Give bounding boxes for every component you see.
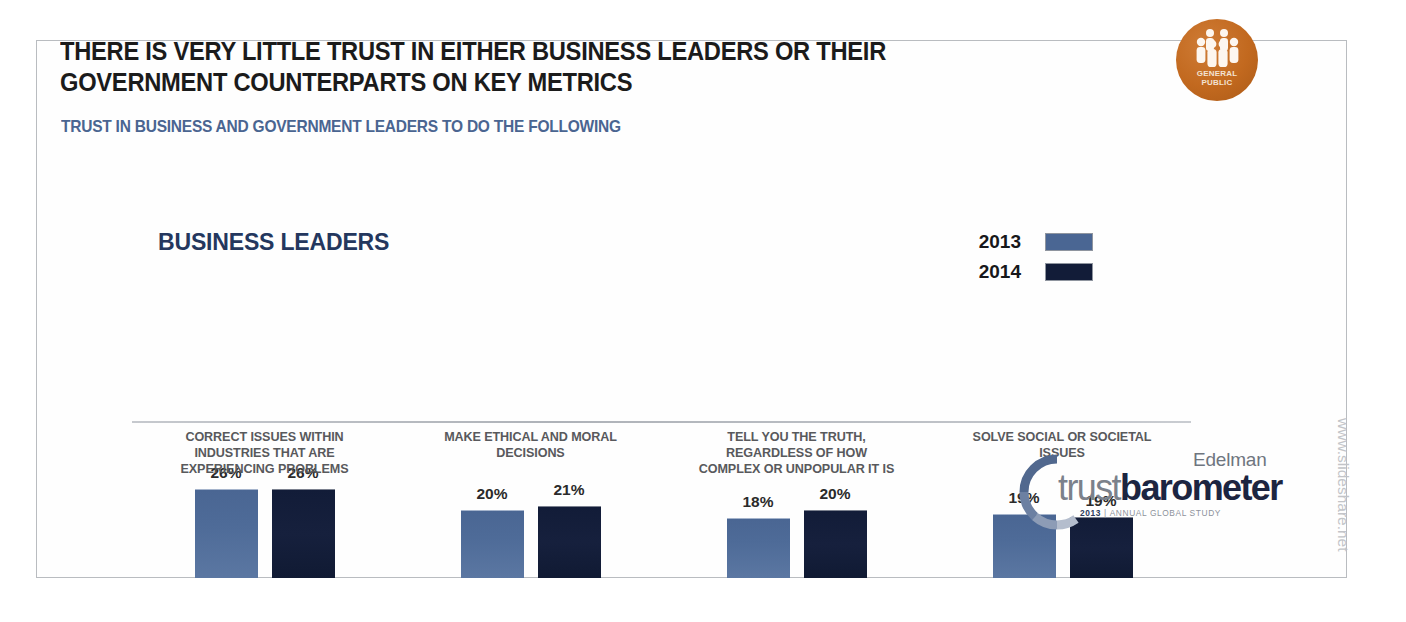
logo-word-trust: trust xyxy=(1058,467,1120,508)
category-label-3: TELL YOU THE TRUTH, REGARDLESS OF HOW CO… xyxy=(656,429,937,477)
logo-sub-divider: | xyxy=(1104,508,1107,518)
edelman-trust-barometer-logo: Edelman trustbarometer 2013 | ANNUAL GLO… xyxy=(1018,445,1288,533)
legend-label-2014: 2014 xyxy=(961,261,1045,283)
x-axis-line xyxy=(132,421,1191,423)
legend-item-2014: 2014 xyxy=(961,259,1161,285)
bar-value-2014-3: 20% xyxy=(819,485,850,503)
legend-item-2013: 2013 xyxy=(961,229,1161,255)
category-label-3-line1: TELL YOU THE TRUTH, xyxy=(656,429,937,445)
bar-value-2013-3: 18% xyxy=(742,493,773,511)
category-label-3-line3: COMPLEX OR UNPOPULAR IT IS xyxy=(656,461,937,477)
slideshare-watermark: www.slideshare.net xyxy=(1334,418,1352,598)
bar-2013-3[interactable] xyxy=(727,518,790,578)
logo-sub-year: 2013 xyxy=(1080,508,1101,518)
bar-2014-3[interactable] xyxy=(804,510,867,578)
bar-2013-2[interactable] xyxy=(461,510,524,578)
logo-subline: 2013 | ANNUAL GLOBAL STUDY xyxy=(1080,508,1221,518)
bar-2014-2[interactable] xyxy=(538,506,601,578)
category-label-2-line2: DECISIONS xyxy=(398,445,663,461)
logo-word-barometer: barometer xyxy=(1120,467,1282,508)
bar-wrap-2013-2: 20% xyxy=(461,446,524,578)
bar-2013-1[interactable] xyxy=(195,489,258,578)
bar-wrap-2014-2: 21% xyxy=(538,446,601,578)
category-label-1-line3: EXPERIENCING PROBLEMS xyxy=(132,461,397,477)
legend-swatch-2014 xyxy=(1045,263,1093,281)
bar-value-2013-2: 20% xyxy=(476,485,507,503)
bar-value-2014-2: 21% xyxy=(553,481,584,499)
legend-swatch-2013 xyxy=(1045,233,1093,251)
logo-sub-text: ANNUAL GLOBAL STUDY xyxy=(1110,508,1221,518)
category-label-2: MAKE ETHICAL AND MORAL DECISIONS xyxy=(398,429,663,461)
legend-label-2013: 2013 xyxy=(961,231,1045,253)
bar-2014-1[interactable] xyxy=(272,489,335,578)
category-label-1-line1: CORRECT ISSUES WITHIN xyxy=(132,429,397,445)
chart-group-title: BUSINESS LEADERS xyxy=(158,228,389,256)
category-label-2-line1: MAKE ETHICAL AND MORAL xyxy=(398,429,663,445)
category-label-1-line2: INDUSTRIES THAT ARE xyxy=(132,445,397,461)
category-label-4-line1: SOLVE SOCIAL OR SOCIETAL xyxy=(926,429,1198,445)
chart-legend: 2013 2014 xyxy=(961,229,1161,289)
category-label-3-line2: REGARDLESS OF HOW xyxy=(656,445,937,461)
logo-wordmark: trustbarometer xyxy=(1058,467,1282,509)
category-label-1: CORRECT ISSUES WITHIN INDUSTRIES THAT AR… xyxy=(132,429,397,477)
bar-group-2: 20% 21% xyxy=(398,446,663,578)
